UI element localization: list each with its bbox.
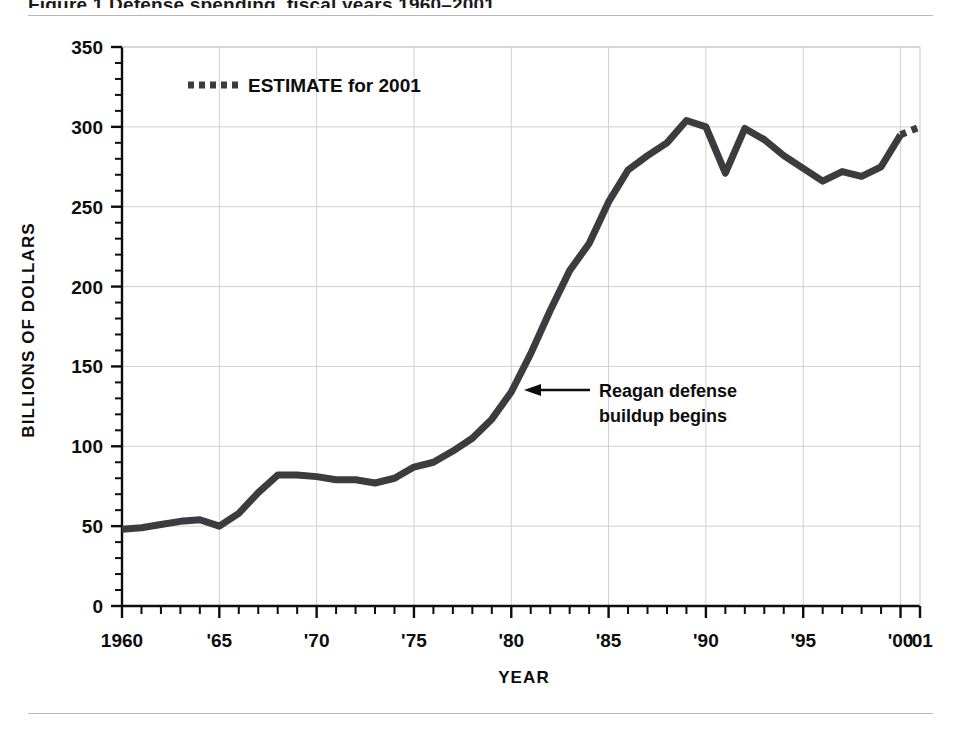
y-tick-label: 150 xyxy=(71,356,103,377)
y-tick-label: 50 xyxy=(82,516,103,537)
x-tick-label: 1960 xyxy=(101,630,143,651)
data-series-group xyxy=(122,120,920,529)
x-axis-title: YEAR xyxy=(498,668,550,687)
x-tick-label: '01 xyxy=(907,630,933,651)
axes-group xyxy=(122,47,920,606)
left-arrow-icon xyxy=(524,384,541,396)
y-tick-label: 250 xyxy=(71,197,103,218)
legend-label-estimate: ESTIMATE for 2001 xyxy=(248,75,421,96)
series-line-estimate xyxy=(901,127,920,135)
tick-marks-group xyxy=(111,47,920,618)
y-tick-label: 0 xyxy=(92,596,103,617)
annotation-line-2: buildup begins xyxy=(599,406,727,426)
x-tick-label: '80 xyxy=(498,630,524,651)
x-tick-label: '70 xyxy=(304,630,330,651)
annotation-reagan-buildup: Reagan defense buildup begins xyxy=(524,381,737,426)
chart-legend: ESTIMATE for 2001 xyxy=(188,75,421,96)
x-tick-label: '65 xyxy=(206,630,232,651)
figure-container: Figure 1 Defense spending, fiscal years … xyxy=(0,0,961,730)
x-tick-label: '85 xyxy=(596,630,622,651)
x-tick-label: '95 xyxy=(790,630,816,651)
x-tick-label: '90 xyxy=(693,630,719,651)
gridlines-group xyxy=(122,47,920,606)
annotation-line-1: Reagan defense xyxy=(599,381,737,401)
x-tick-label: '75 xyxy=(401,630,427,651)
y-tick-labels-group: 050100150200250300350 xyxy=(71,37,103,617)
y-tick-label: 350 xyxy=(71,37,103,58)
y-tick-label: 100 xyxy=(71,436,103,457)
x-tick-labels-group: 1960'65'70'75'80'85'90'95'00'01 xyxy=(101,630,933,651)
y-tick-label: 200 xyxy=(71,277,103,298)
y-tick-label: 300 xyxy=(71,117,103,138)
defense-spending-line-chart: 050100150200250300350 1960'65'70'75'80'8… xyxy=(0,0,961,730)
y-axis-title: BILLIONS OF DOLLARS xyxy=(19,222,38,437)
